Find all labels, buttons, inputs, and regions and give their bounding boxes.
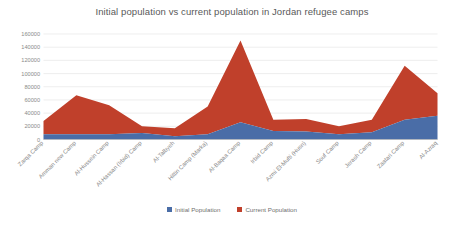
chart-plot-area: 0200004000060000800001000001200001400001…	[0, 0, 464, 232]
x-axis-tick-label: Al-Hussein Camp	[73, 139, 110, 176]
x-axis-tick-label: Amman new Camp	[37, 139, 77, 179]
x-axis-tick-label: Al-Baqaa Camp	[208, 139, 242, 173]
x-axis-tick-label: Irbid Camp	[249, 139, 274, 164]
y-axis-tick-label: 20000	[24, 123, 40, 129]
legend-label: Current Population	[245, 206, 297, 213]
legend-label: Initial Population	[175, 206, 220, 213]
area-series-current-population	[44, 41, 438, 137]
chart-legend: Initial PopulationCurrent Population	[0, 206, 464, 213]
legend-swatch-icon	[167, 207, 172, 212]
legend-swatch-icon	[237, 207, 242, 212]
x-axis-tick-label: Souf Camp	[315, 139, 341, 165]
chart-container: Initial population vs current population…	[0, 0, 464, 232]
y-axis-tick-label: 80000	[24, 84, 40, 90]
x-axis-tick-label: Al-Talbyeh	[152, 140, 176, 164]
y-axis-tick-label: 100000	[21, 71, 40, 77]
x-axis-tick-label: Zarqa Camp	[17, 139, 45, 167]
y-axis-tick-label: 40000	[24, 110, 40, 116]
legend-item[interactable]: Initial Population	[167, 206, 220, 213]
y-axis-tick-label: 60000	[24, 97, 40, 103]
x-axis-tick-label: Jerash Camp	[344, 139, 374, 169]
legend-item[interactable]: Current Population	[237, 206, 297, 213]
x-axis-tick-label: Zaatari Camp	[376, 139, 406, 169]
y-axis-tick-label: 160000	[21, 31, 40, 37]
y-axis-tick-label: 120000	[21, 57, 40, 63]
y-axis-tick-label: 140000	[21, 44, 40, 50]
x-axis-tick-label: Al-Azraq	[418, 140, 438, 160]
